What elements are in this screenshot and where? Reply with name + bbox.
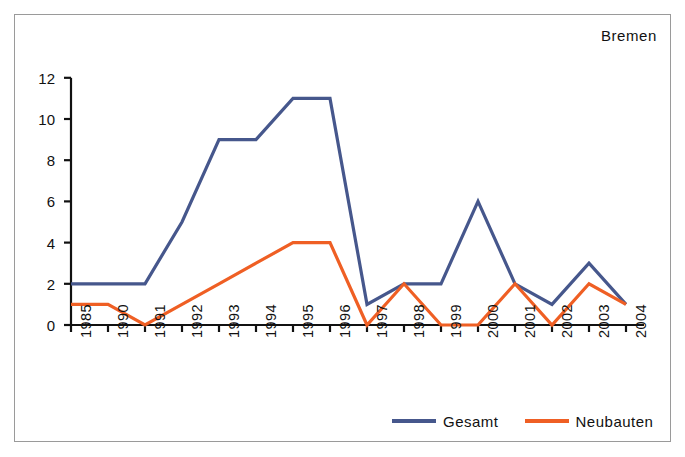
legend-entry-gesamt: Gesamt [392, 413, 499, 430]
y-axis-tick-label: 0 [25, 317, 55, 334]
y-axis-tick-label: 8 [25, 152, 55, 169]
x-axis-tick-label: 1995 [300, 304, 316, 338]
legend-label: Gesamt [443, 413, 499, 430]
series-line-gesamt [71, 98, 626, 304]
x-axis-tick-label: 2003 [596, 304, 612, 338]
legend-swatch [392, 419, 436, 423]
y-axis-tick-label: 4 [25, 234, 55, 251]
x-axis-tick-label: 2000 [485, 304, 501, 338]
x-axis-tick-label: 1994 [263, 304, 279, 338]
chart-legend: GesamtNeubauten [392, 409, 653, 433]
x-axis-tick-label: 1997 [374, 304, 390, 338]
chart-figure: Bremen 024681012 19851990199119921993199… [0, 0, 685, 457]
plot-area [0, 0, 685, 457]
y-axis-tick-label: 6 [25, 193, 55, 210]
x-axis-tick-label: 2001 [522, 304, 538, 338]
x-axis-tick-label: 1993 [226, 304, 242, 338]
y-axis-tick-label: 12 [25, 69, 55, 86]
y-axis-tick-label: 10 [25, 111, 55, 128]
x-axis-tick-label: 1992 [189, 304, 205, 338]
y-axis-tick-label: 2 [25, 275, 55, 292]
legend-entry-neubauten: Neubauten [525, 413, 654, 430]
x-axis-tick-label: 2004 [633, 304, 649, 338]
x-axis-tick-label: 1996 [337, 304, 353, 338]
x-axis-tick-label: 1999 [448, 304, 464, 338]
legend-swatch [525, 419, 569, 423]
x-axis-tick-label: 2002 [559, 304, 575, 338]
x-axis-tick-label: 1998 [411, 304, 427, 338]
x-axis-tick-label: 1991 [152, 304, 168, 338]
x-axis-tick-label: 1990 [115, 304, 131, 338]
x-axis-tick-label: 1985 [78, 304, 94, 338]
legend-label: Neubauten [576, 413, 654, 430]
